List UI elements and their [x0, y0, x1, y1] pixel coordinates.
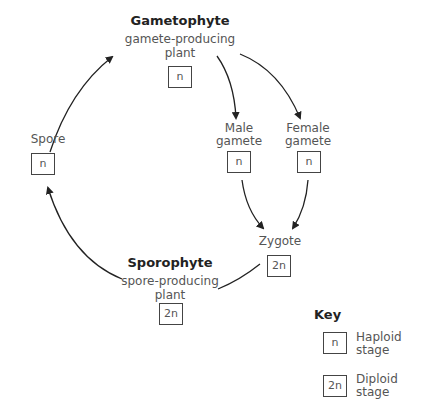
arrow-female-to-zygote: [293, 180, 308, 228]
sporophyte-desc-line2: plant: [110, 288, 230, 302]
arrow-male-to-zygote: [242, 180, 263, 228]
legend-haploid-line1: Haploid: [356, 330, 402, 344]
zygote-label: Zygote: [252, 234, 308, 248]
sporophyte-title: Sporophyte: [110, 256, 230, 270]
gametophyte-desc-line2: plant: [110, 46, 250, 60]
legend-diploid-line2: stage: [356, 385, 389, 399]
zygote-ploidy-box: 2n: [267, 255, 291, 277]
gametophyte-desc-line1: gamete-producing: [110, 32, 250, 46]
arrow-gametophyte-to-male: [217, 56, 236, 118]
legend-haploid-line2: stage: [356, 343, 389, 357]
female-gamete-line2: gamete: [281, 134, 335, 148]
male-gamete-line2: gamete: [214, 134, 264, 148]
sporophyte-desc-line1: spore-producing: [110, 274, 230, 288]
gametophyte-title: Gametophyte: [110, 14, 250, 28]
male-gamete-ploidy-box: n: [227, 151, 251, 173]
female-gamete-ploidy-box: n: [297, 151, 321, 173]
gametophyte-ploidy-box: n: [168, 66, 192, 88]
legend-diploid-line1: Diploid: [356, 372, 398, 386]
legend-title: Key: [314, 308, 344, 322]
legend-haploid-box: n: [323, 332, 347, 354]
spore-ploidy-box: n: [31, 153, 55, 175]
female-gamete-line1: Female: [281, 121, 335, 135]
legend-diploid-box: 2n: [323, 375, 347, 397]
spore-label: Spore: [20, 132, 76, 146]
arrow-gametophyte-to-female: [240, 54, 300, 118]
sporophyte-ploidy-box: 2n: [159, 303, 183, 325]
male-gamete-line1: Male: [214, 121, 264, 135]
